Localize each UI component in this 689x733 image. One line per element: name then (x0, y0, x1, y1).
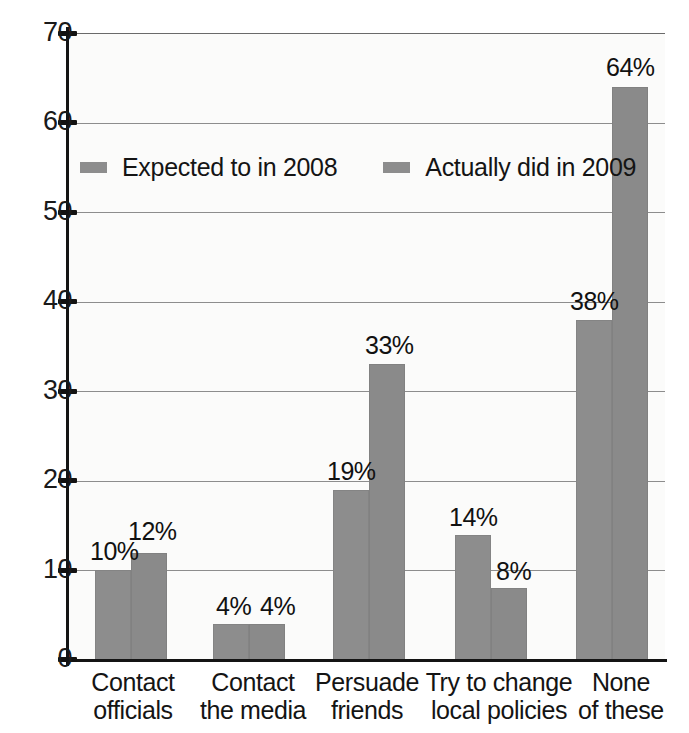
gridline-70 (68, 33, 665, 34)
legend-swatch-icon-expected (80, 162, 107, 173)
x-axis-line (62, 659, 667, 662)
y-tick-label-10: 10 (20, 556, 72, 583)
legend-entry-expected: Expected to in 2008 (80, 155, 337, 180)
bar-value-contact-officials-actual: 12% (128, 519, 177, 544)
y-tick-label-20: 20 (20, 466, 72, 493)
x-label-line2: of these (553, 696, 689, 724)
legend-swatch-icon-actual (383, 162, 410, 173)
chart-legend: Expected to in 2008 Actually did in 2009 (80, 155, 636, 180)
y-tick-label-50: 50 (20, 198, 72, 225)
legend-label-expected: Expected to in 2008 (122, 155, 337, 180)
bar-value-none-of-these-actual: 64% (606, 55, 655, 80)
legend-label-actual: Actually did in 2009 (425, 155, 636, 180)
bar-chart: 10% 12% 4% 4% 19% 33% 14% 8% 38% 64% Exp… (0, 0, 689, 733)
gridline-60 (68, 123, 665, 124)
bar-persuade-friends-actual (369, 364, 405, 660)
legend-entry-actual: Actually did in 2009 (383, 155, 636, 180)
bar-value-none-of-these-expected: 38% (570, 289, 619, 314)
bar-local-policies-expected (455, 535, 491, 660)
bar-persuade-friends-expected (333, 490, 369, 660)
y-tick-label-60: 60 (20, 108, 72, 135)
bar-value-contact-media-actual: 4% (260, 594, 295, 619)
y-tick-label-30: 30 (20, 377, 72, 404)
y-tick-label-70: 70 (20, 19, 72, 46)
plot-area: 10% 12% 4% 4% 19% 33% 14% 8% 38% 64% Exp… (68, 33, 665, 660)
bar-contact-media-expected (213, 624, 249, 660)
bar-value-local-policies-expected: 14% (449, 505, 498, 530)
x-label-none-of-these: None of these (553, 668, 689, 725)
bar-value-persuade-friends-actual: 33% (365, 333, 414, 358)
bar-value-contact-media-expected: 4% (216, 594, 251, 619)
bar-none-of-these-expected (576, 320, 612, 660)
bar-contact-media-actual (249, 624, 285, 660)
bar-local-policies-actual (491, 588, 527, 660)
gridline-50 (68, 212, 665, 213)
bar-value-local-policies-actual: 8% (496, 559, 531, 584)
bar-contact-officials-actual (131, 553, 167, 661)
x-label-line1: None (553, 668, 689, 696)
y-tick-label-40: 40 (20, 287, 72, 314)
bar-contact-officials-expected (95, 570, 131, 660)
bar-value-persuade-friends-expected: 19% (327, 459, 376, 484)
